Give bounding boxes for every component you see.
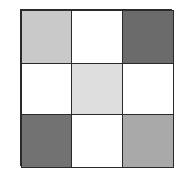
grid-cell-r2-c0-dark-gray xyxy=(21,114,72,168)
grid-cell-r2-c2-medium-gray xyxy=(122,114,174,168)
grid-cell-r1-c1-very-light-gray xyxy=(71,63,123,115)
grid-cell-r2-c1-white xyxy=(71,114,123,168)
grid-cell-r0-c2-dark-gray xyxy=(122,10,174,64)
grid-cell-r0-c1-white xyxy=(71,10,123,64)
grid-cell-r1-c2-white xyxy=(122,63,174,115)
shaded-grid-3x3 xyxy=(20,9,172,166)
grid-cell-r1-c0-white xyxy=(21,63,72,115)
grid-cell-r0-c0-light-gray xyxy=(21,10,72,64)
